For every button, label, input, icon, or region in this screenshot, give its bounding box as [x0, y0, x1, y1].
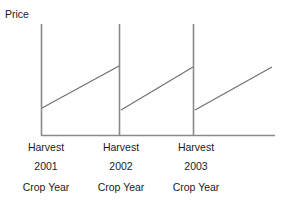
- price-line-2002: [121, 67, 193, 110]
- y-axis-title: Price: [5, 8, 29, 20]
- harvest-label-3: Harvest: [166, 141, 226, 153]
- price-crop-year-chart: Price Harvest Harvest Harvest 2001 2002 …: [0, 0, 291, 203]
- harvest-label-1: Harvest: [16, 141, 76, 153]
- year-label-2003: 2003: [166, 160, 226, 172]
- price-line-2003: [195, 67, 272, 110]
- crop-year-label-3: Crop Year: [166, 181, 226, 193]
- price-line-2001: [42, 66, 119, 108]
- crop-year-label-1: Crop Year: [16, 181, 76, 193]
- harvest-label-2: Harvest: [91, 141, 151, 153]
- chart-plot-area: [0, 0, 291, 203]
- year-label-2001: 2001: [16, 160, 76, 172]
- crop-year-label-2: Crop Year: [91, 181, 151, 193]
- year-label-2002: 2002: [91, 160, 151, 172]
